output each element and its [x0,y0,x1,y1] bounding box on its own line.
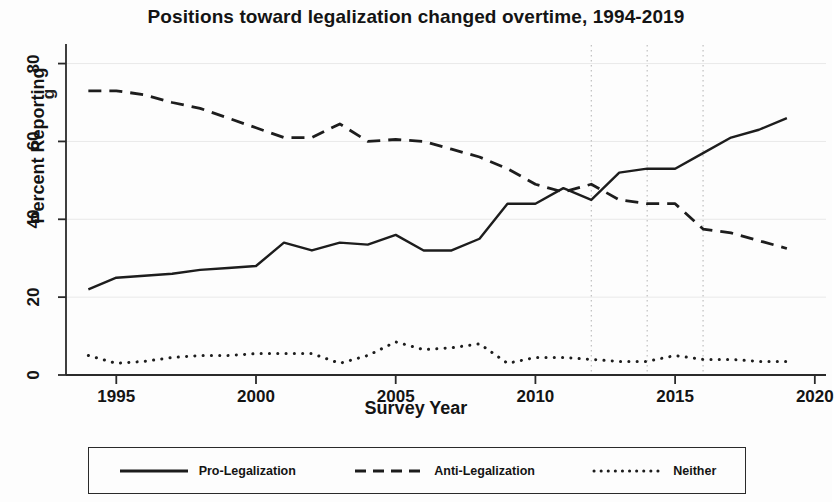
series-line-pro-legalization [88,118,787,289]
data-series-layer [88,91,787,364]
plot-svg [0,0,832,430]
legend-item-neither: Neither [592,464,716,478]
x-tick-2015: 2015 [645,387,705,407]
y-tick-40: 40 [24,199,44,239]
y-tick-20: 20 [24,277,44,317]
legend-label-neither: Neither [673,464,716,478]
stray-glyph-artifact: g [39,89,59,99]
dotted-line-key-icon [592,465,664,477]
legend-label-pro: Pro-Legalization [199,464,296,478]
axis-lines [58,44,826,384]
y-tick-0: 0 [24,355,44,395]
y-tick-60: 60 [24,121,44,161]
legend-item-anti: Anti-Legalization [353,464,535,478]
x-tick-2020: 2020 [785,387,838,407]
legend-label-anti: Anti-Legalization [434,464,535,478]
chart-legend: Pro-Legalization Anti-Legalization Neith… [88,447,746,494]
y-tick-80: 80 [24,44,44,84]
x-tick-2000: 2000 [226,387,286,407]
solid-line-key-icon [118,465,190,477]
x-tick-2005: 2005 [366,387,426,407]
gridlines [66,45,826,375]
series-line-anti-legalization [88,91,787,249]
dashed-line-key-icon [353,465,425,477]
series-line-neither [88,342,787,363]
legend-item-pro: Pro-Legalization [118,464,296,478]
x-tick-1995: 1995 [86,387,146,407]
x-tick-2010: 2010 [505,387,565,407]
plot-area: Percent Reporting g Survey Year 19952000… [0,0,832,430]
